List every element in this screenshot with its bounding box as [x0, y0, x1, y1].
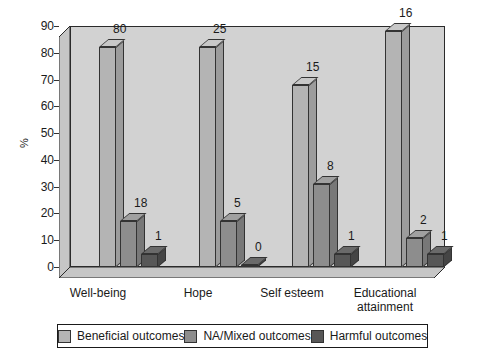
- bar-2: [141, 254, 158, 267]
- y-tick-label: 20: [30, 208, 54, 218]
- bar-face: [292, 85, 309, 267]
- y-tick-label: 90: [30, 21, 54, 31]
- bar-face: [406, 238, 423, 267]
- category-label: Educationalattainment: [325, 286, 445, 314]
- bar-1: [313, 184, 330, 267]
- bar-2: [241, 265, 258, 267]
- bar-value-label: 80: [113, 22, 126, 36]
- category-label-line: Educational: [325, 286, 445, 300]
- y-tick-mark: [54, 133, 59, 134]
- legend-label: Beneficial outcomes: [77, 329, 184, 343]
- y-tick-label: 70: [30, 75, 54, 85]
- bar-group: 1581: [292, 37, 382, 267]
- bar-value-label: 16: [399, 6, 412, 20]
- bar-face: [99, 47, 116, 267]
- y-tick-mark: [54, 26, 59, 27]
- bar-side: [237, 215, 245, 267]
- bar-value-label: 5: [234, 196, 241, 210]
- bar-value-label: 8: [327, 159, 334, 173]
- legend-swatch-icon: [311, 330, 324, 343]
- y-axis: 9080706050403020100: [28, 0, 54, 362]
- bar-face: [385, 31, 402, 267]
- bar-face: [220, 221, 237, 267]
- legend-label: Harmful outcomes: [330, 329, 427, 343]
- bar-value-label: 1: [441, 229, 448, 243]
- bar-0: [385, 31, 402, 267]
- y-tick-mark: [54, 80, 59, 81]
- y-tick-label: 50: [30, 128, 54, 138]
- bar-face: [427, 254, 444, 267]
- y-tick-mark: [54, 106, 59, 107]
- legend-item: NA/Mixed outcomes: [184, 329, 310, 343]
- bar-1: [220, 221, 237, 267]
- bar-value-label: 18: [134, 196, 147, 210]
- legend-label: NA/Mixed outcomes: [203, 329, 310, 343]
- y-tick-label: 40: [30, 155, 54, 165]
- y-tick-mark: [54, 160, 59, 161]
- bar-2: [427, 254, 444, 267]
- bar-2: [334, 254, 351, 267]
- y-tick-mark: [54, 53, 59, 54]
- bar-value-label: 1: [348, 229, 355, 243]
- bar-1: [120, 221, 137, 267]
- category-label-line: attainment: [325, 300, 445, 314]
- y-tick-label: 30: [30, 182, 54, 192]
- legend-swatch-icon: [58, 330, 71, 343]
- bar-face: [120, 221, 137, 267]
- chart-legend: Beneficial outcomesNA/Mixed outcomesHarm…: [57, 324, 428, 348]
- chart-page: % 9080706050403020100 80181255015811621 …: [0, 0, 483, 362]
- legend-item: Harmful outcomes: [311, 329, 427, 343]
- legend-item: Beneficial outcomes: [58, 329, 184, 343]
- y-tick-mark: [54, 213, 59, 214]
- bar-side: [402, 25, 410, 267]
- bar-face: [241, 265, 258, 267]
- bar-face: [199, 47, 216, 267]
- bar-0: [292, 85, 309, 267]
- y-tick-label: 60: [30, 101, 54, 111]
- bar-face: [141, 254, 158, 267]
- plot-area: 80181255015811621: [59, 26, 445, 278]
- bar-face: [334, 254, 351, 267]
- bar-1: [406, 238, 423, 267]
- bar-0: [199, 47, 216, 267]
- bar-group: 1621: [385, 37, 475, 267]
- y-tick-mark: [54, 240, 59, 241]
- bar-face: [313, 184, 330, 267]
- y-tick-mark: [54, 267, 59, 268]
- bar-group: 80181: [99, 37, 189, 267]
- y-tick-label: 10: [30, 235, 54, 245]
- bar-chart-figure: % 9080706050403020100 80181255015811621 …: [0, 0, 483, 362]
- bar-value-label: 25: [213, 22, 226, 36]
- y-tick-mark: [54, 187, 59, 188]
- y-tick-label: 0: [30, 262, 54, 272]
- y-tick-label: 80: [30, 48, 54, 58]
- bar-value-label: 15: [306, 60, 319, 74]
- bar-value-label: 0: [255, 240, 262, 254]
- bar-value-label: 2: [420, 213, 427, 227]
- legend-swatch-icon: [184, 330, 197, 343]
- bar-group: 2550: [199, 37, 289, 267]
- bar-value-label: 1: [155, 229, 162, 243]
- bar-0: [99, 47, 116, 267]
